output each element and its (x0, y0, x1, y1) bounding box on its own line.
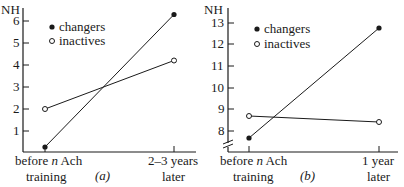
y-ticks: 1 2 3 4 5 6 (13, 13, 29, 138)
inactives-point (377, 120, 382, 125)
changers-point (376, 25, 381, 30)
y-tick-label: 3 (13, 79, 20, 94)
x-label-before: before n Ach (220, 153, 288, 168)
y-tick-label: 11 (211, 58, 224, 73)
chart-panel-a: NH 1 2 3 4 5 6 changers (1, 2, 198, 184)
open-circle-icon (255, 42, 260, 47)
x-label-before-line2: training (233, 169, 274, 184)
figure: NH 1 2 3 4 5 6 changers (0, 0, 404, 187)
chart-panel-b: NH 8 9 10 11 12 13 changers inactive (204, 2, 398, 184)
inactives-point (43, 107, 48, 112)
y-ticks: 8 9 10 11 12 13 (211, 15, 234, 138)
changers-point (246, 135, 251, 140)
legend-inactives: inactives (59, 33, 105, 48)
legend: changers inactives (254, 21, 310, 51)
changers-point (42, 144, 47, 149)
legend-inactives: inactives (264, 36, 310, 51)
y-tick-label: 12 (211, 36, 224, 51)
y-tick-label: 1 (13, 123, 20, 138)
panel-caption-b: (b) (300, 168, 315, 183)
y-tick-label: 10 (211, 80, 224, 95)
changers-point (171, 12, 176, 17)
y-tick-label: 9 (218, 101, 225, 116)
panel-caption-a: (a) (95, 168, 110, 183)
x-label-after-line2: later (367, 169, 391, 184)
inactives-point (247, 114, 252, 119)
filled-circle-icon (254, 26, 259, 31)
y-tick-label: 13 (211, 15, 224, 30)
x-label-before-line2: training (26, 169, 67, 184)
filled-circle-icon (49, 24, 54, 29)
y-tick-label: 8 (218, 123, 225, 138)
y-tick-label: 2 (13, 101, 20, 116)
legend: changers inactives (49, 19, 105, 48)
inactives-point (172, 58, 177, 63)
y-tick-label: 6 (13, 13, 20, 28)
legend-changers: changers (59, 19, 105, 34)
y-tick-label: 4 (13, 57, 20, 72)
legend-changers: changers (264, 21, 310, 36)
x-label-before: before n Ach (15, 153, 83, 168)
open-circle-icon (50, 39, 55, 44)
x-label-after: 1 year (362, 153, 395, 168)
x-label-after: 2–3 years (148, 153, 198, 168)
series-inactives-line (45, 61, 174, 110)
y-tick-label: 5 (13, 35, 20, 50)
x-label-after-line2: later (162, 169, 186, 184)
